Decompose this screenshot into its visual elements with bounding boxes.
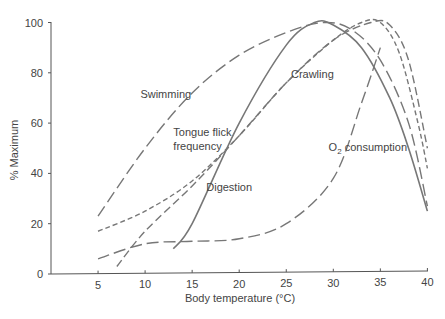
x-axis-label: Body temperature (°C) [185, 292, 295, 304]
x-tick-label: 40 [421, 276, 433, 288]
y-tick-label: 100 [25, 17, 43, 29]
x-tick-label: 25 [280, 277, 292, 289]
y-tick-label: 80 [31, 67, 43, 79]
y-tick-label: 60 [31, 117, 43, 129]
x-tick-label: 35 [374, 276, 386, 288]
crawling-label: Crawling [291, 68, 334, 80]
temperature-performance-chart: 020406080100 510152025303540 SwimmingTon… [0, 0, 445, 319]
swimming-label: Swimming [140, 88, 191, 100]
x-tick-label: 15 [186, 278, 198, 290]
y-axis-label: % Maximum [8, 120, 20, 181]
y-tick-label: 20 [31, 218, 43, 230]
y-tick-label: 0 [37, 268, 43, 280]
digestion-label: Digestion [206, 181, 252, 193]
x-tick-label: 10 [139, 278, 151, 290]
tongue-flick-frequency-label: Tongue flickfrequency [173, 126, 232, 152]
x-tick-label: 30 [327, 277, 339, 289]
x-tick-label: 20 [233, 278, 245, 290]
swimming-line [98, 22, 427, 216]
x-tick-label: 5 [95, 279, 101, 291]
y-tick-label: 40 [31, 167, 43, 179]
tongue-flick-frequency-line [98, 19, 427, 231]
o2-consumption-label: O2 consumption [329, 141, 407, 156]
y-ticks: 020406080100 [25, 17, 51, 281]
